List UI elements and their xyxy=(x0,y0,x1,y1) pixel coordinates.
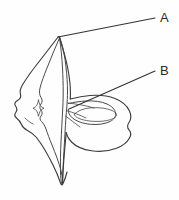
inner-lens-oval xyxy=(74,108,116,122)
callout-b: B xyxy=(69,63,169,109)
callout-a-label: A xyxy=(160,10,169,25)
callout-a: A xyxy=(58,10,169,37)
left-notch-detail xyxy=(25,118,33,124)
callout-a-leader-line xyxy=(58,18,155,37)
figure-container: A B xyxy=(0,0,179,200)
specimen-line-drawing: A B xyxy=(0,0,179,200)
callout-b-label: B xyxy=(160,63,169,78)
callout-b-leader-line xyxy=(69,71,155,109)
central-ridge xyxy=(60,38,64,185)
